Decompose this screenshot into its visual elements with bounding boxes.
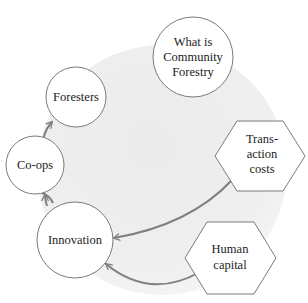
svg-text:Trans-: Trans- (246, 132, 278, 146)
svg-text:costs: costs (250, 162, 275, 176)
node-label-line: What is (174, 35, 213, 49)
concept-diagram: Foresters What is Community Forestry Co-… (0, 0, 308, 303)
node-label: Co-ops (17, 158, 53, 172)
node-label-line: Human (212, 242, 250, 256)
svg-text:Co-ops: Co-ops (17, 158, 53, 172)
node-label: Foresters (53, 90, 99, 104)
node-foresters: Foresters (46, 67, 106, 127)
node-innovation: Innovation (37, 202, 113, 278)
svg-text:action: action (247, 147, 278, 161)
svg-text:Forestry: Forestry (172, 65, 214, 79)
svg-text:Innovation: Innovation (48, 233, 103, 247)
node-label: Innovation (48, 233, 103, 247)
node-label-line: costs (250, 162, 275, 176)
svg-text:Foresters: Foresters (53, 90, 99, 104)
svg-text:capital: capital (213, 258, 247, 272)
node-label-line: Forestry (172, 65, 214, 79)
node-label-line: Community (163, 50, 223, 64)
node-label-line: action (247, 147, 278, 161)
svg-text:Community: Community (163, 50, 223, 64)
node-community-forestry: What is Community Forestry (153, 17, 233, 97)
svg-text:What is: What is (174, 35, 213, 49)
node-label-line: capital (213, 258, 247, 272)
node-label-line: Trans- (246, 132, 278, 146)
svg-text:Human: Human (212, 242, 250, 256)
node-co-ops: Co-ops (6, 136, 64, 194)
